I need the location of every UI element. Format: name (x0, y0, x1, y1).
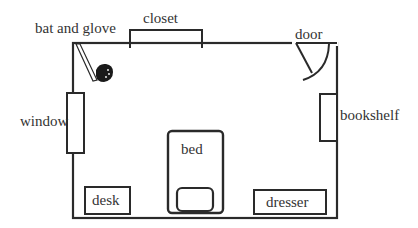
window-shape (67, 93, 84, 153)
bat-and-glove-label: bat and glove (35, 20, 116, 36)
bed-label: bed (181, 141, 203, 157)
desk-label: desk (92, 192, 120, 208)
bat-and-glove-icon (76, 44, 113, 82)
door-label: door (295, 26, 323, 42)
window-label: window (20, 113, 68, 129)
bookshelf-shape (320, 94, 337, 141)
door-shape (292, 40, 338, 80)
bookshelf-label: bookshelf (340, 107, 399, 123)
closet-shape (130, 30, 202, 48)
closet-label: closet (143, 10, 178, 26)
dresser-label: dresser (266, 194, 308, 210)
